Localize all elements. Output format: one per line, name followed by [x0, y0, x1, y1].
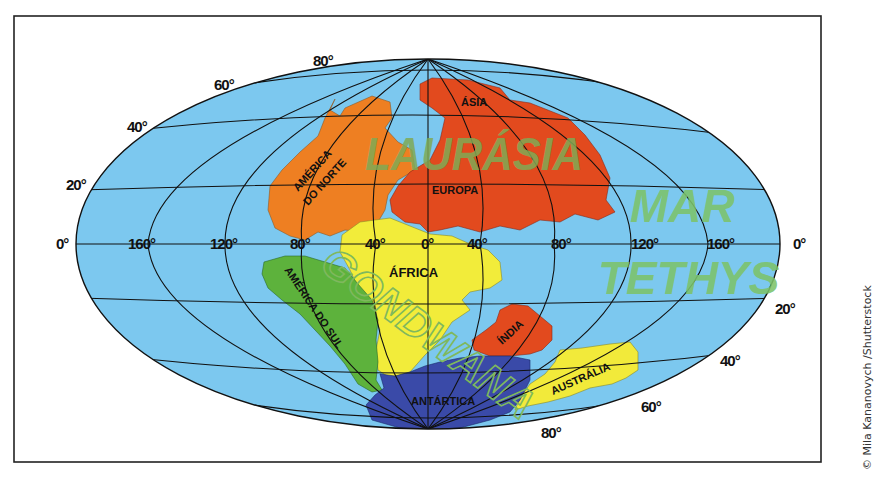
lon-label-right-edge: 0° — [793, 235, 806, 252]
laurasia-label: LAURÁSIA — [365, 128, 583, 180]
lon-label-w80: 80° — [290, 235, 311, 252]
lat-label-n60: 60° — [214, 76, 235, 93]
antarctica-label: ANTÁRTICA — [411, 395, 475, 407]
tethys-label: TETHYS — [598, 252, 780, 304]
lon-label-e120: 120° — [631, 235, 659, 252]
lat-label-n20: 20° — [66, 176, 87, 193]
lat-label-s80: 80° — [541, 424, 562, 441]
lon-label-e80: 80° — [551, 235, 572, 252]
lon-label-w40: 40° — [365, 235, 386, 252]
lat-label-s40: 40° — [720, 352, 741, 369]
lon-label-left-edge: 0° — [56, 235, 69, 252]
lat-label-s60: 60° — [641, 398, 662, 415]
lat-label-n80: 80° — [313, 52, 334, 69]
lon-label-zero: 0° — [421, 235, 434, 252]
mar-label: MAR — [630, 180, 735, 232]
image-credit: © Mila Kananovych /Shutterstock — [861, 285, 874, 470]
lon-label-e160: 160° — [707, 235, 735, 252]
africa-label: ÁFRICA — [389, 265, 439, 280]
europe-label: EUROPA — [432, 184, 478, 196]
lon-label-w120: 120° — [210, 235, 238, 252]
asia-label: ÁSIA — [461, 96, 487, 108]
lon-label-w160: 160° — [128, 235, 156, 252]
lat-label-s20: 20° — [775, 300, 796, 317]
pangaea-map: LAURÁSIA MAR TETHYS GONDWANA AMÉRICA DO … — [0, 0, 887, 489]
lon-label-e40: 40° — [467, 235, 488, 252]
lat-label-n40: 40° — [127, 118, 148, 135]
